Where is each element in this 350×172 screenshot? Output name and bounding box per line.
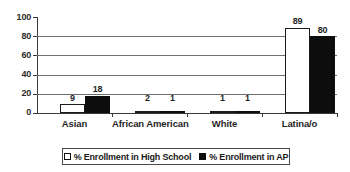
- x-tick-separator-4: [337, 113, 338, 117]
- bar-ap-latina-o: [310, 36, 335, 113]
- x-tick-separator-2: [187, 113, 188, 117]
- bar-chart: 100 80 60 40 20 0 9 18 2 1 1 1: [0, 0, 350, 172]
- bar-label-high-school-asian: 9: [60, 93, 85, 103]
- x-axis-label-african-american: African American: [112, 118, 187, 129]
- bar-high-school-latina-o: [285, 28, 310, 113]
- legend-entry-ap: % Enrollment in AP: [199, 152, 288, 162]
- bar-label-high-school-white: 1: [210, 93, 235, 103]
- bar-label-ap-asian: 18: [85, 84, 110, 94]
- bar-label-ap-african-american: 1: [160, 93, 185, 103]
- legend-entry-high-school: % Enrollment in High School: [64, 152, 192, 162]
- bar-high-school-white: [210, 111, 235, 113]
- chart-legend: % Enrollment in High School % Enrollment…: [62, 148, 290, 165]
- plot-area: 9 18 2 1 1 1 89 80: [37, 17, 337, 113]
- bar-high-school-african-american: [135, 111, 160, 114]
- x-axis-label-white: White: [187, 118, 262, 129]
- x-tick-separator-3: [262, 113, 263, 117]
- y-tick-label-100: 100: [0, 12, 31, 22]
- y-tick-label-40: 40: [0, 69, 31, 79]
- x-tick-separator-1: [112, 113, 113, 117]
- black-square-icon: [199, 153, 206, 160]
- white-square-icon: [64, 153, 71, 160]
- x-axis-label-latina-o: Latina/o: [262, 118, 337, 129]
- y-tick-label-80: 80: [0, 31, 31, 41]
- x-axis-label-asian: Asian: [37, 118, 112, 129]
- bar-label-ap-white: 1: [235, 93, 260, 103]
- bar-label-high-school-african-american: 2: [135, 93, 160, 103]
- bar-ap-african-american: [160, 111, 185, 113]
- legend-label-ap: % Enrollment in AP: [209, 152, 288, 162]
- y-tick-label-0: 0: [0, 107, 31, 117]
- bar-ap-asian: [85, 96, 110, 113]
- legend-label-high-school: % Enrollment in High School: [74, 152, 192, 162]
- y-tick-label-60: 60: [0, 50, 31, 60]
- y-tick-label-20: 20: [0, 88, 31, 98]
- bar-label-ap-latina-o: 80: [310, 25, 335, 35]
- bar-ap-white: [235, 111, 260, 113]
- bar-high-school-asian: [60, 104, 85, 113]
- bar-label-high-school-latina-o: 89: [285, 16, 310, 26]
